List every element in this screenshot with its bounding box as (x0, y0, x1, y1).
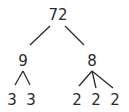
edge-72-9 (30, 26, 50, 45)
node-left: 9 (18, 52, 28, 70)
node-left-child-1: 3 (7, 91, 17, 109)
node-right-child-1: 2 (72, 91, 82, 109)
node-root: 72 (48, 6, 67, 24)
node-right-child-2: 2 (91, 91, 101, 109)
node-left-child-2: 3 (26, 91, 36, 109)
edge-8-2a (79, 71, 92, 86)
edge-9-3b (23, 71, 30, 85)
factor-tree: 72 9 8 3 3 2 2 2 (0, 0, 129, 112)
node-right: 8 (87, 52, 97, 70)
edge-72-8 (65, 26, 84, 45)
node-right-child-3: 2 (110, 91, 120, 109)
edge-9-3a (15, 71, 23, 85)
